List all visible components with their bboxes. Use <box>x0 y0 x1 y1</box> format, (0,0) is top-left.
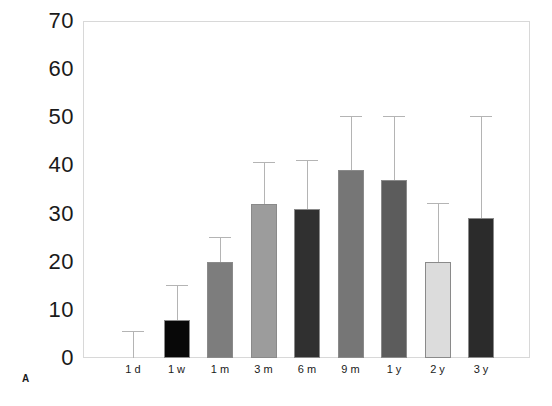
error-bar-cap <box>122 331 144 332</box>
x-tick-label: 9 m <box>331 364 371 375</box>
chart-page: 010203040506070 1 d1 w1 m3 m6 m9 m1 y2 y… <box>0 0 552 406</box>
panel-letter: A <box>22 374 29 384</box>
error-bar-line <box>264 163 265 204</box>
bar[interactable] <box>207 262 233 358</box>
error-bar-cap <box>427 203 449 204</box>
bar-group[interactable] <box>425 21 451 358</box>
y-tick-label: 50 <box>0 106 74 128</box>
error-bar-line <box>481 117 482 218</box>
error-bar-cap <box>383 116 405 117</box>
bar-group[interactable] <box>468 21 494 358</box>
x-tick-label: 1 y <box>374 364 414 375</box>
y-axis: 010203040506070 <box>0 0 74 406</box>
y-tick-label: 60 <box>0 58 74 80</box>
x-tick-label: 3 y <box>461 364 501 375</box>
error-bar-line <box>438 204 439 262</box>
bar-group[interactable] <box>294 21 320 358</box>
bar-group[interactable] <box>381 21 407 358</box>
bar[interactable] <box>425 262 451 358</box>
y-tick-label: 10 <box>0 299 74 321</box>
bar-group[interactable] <box>207 21 233 358</box>
error-bar-line <box>394 117 395 180</box>
y-tick-label: 20 <box>0 251 74 273</box>
error-bar-line <box>351 117 352 170</box>
bar-group[interactable] <box>338 21 364 358</box>
x-tick-label: 2 y <box>418 364 458 375</box>
bar[interactable] <box>338 170 364 358</box>
error-bar-cap <box>253 162 275 163</box>
error-bar-cap <box>470 116 492 117</box>
y-tick-label: 40 <box>0 154 74 176</box>
error-bar-line <box>220 238 221 262</box>
y-tick-label: 30 <box>0 203 74 225</box>
y-tick-label: 70 <box>0 10 74 32</box>
error-bar-cap <box>166 285 188 286</box>
error-bar-cap <box>340 116 362 117</box>
bar[interactable] <box>251 204 277 358</box>
bar[interactable] <box>294 209 320 358</box>
error-bar-line <box>307 161 308 209</box>
x-axis: 1 d1 w1 m3 m6 m9 m1 y2 y3 y <box>83 364 530 386</box>
bar-group[interactable] <box>251 21 277 358</box>
error-bar-line <box>177 286 178 320</box>
bar[interactable] <box>164 320 190 359</box>
x-tick-label: 6 m <box>287 364 327 375</box>
bar[interactable] <box>381 180 407 358</box>
x-tick-label: 1 m <box>200 364 240 375</box>
error-bar-cap <box>296 160 318 161</box>
error-bar-line <box>133 332 134 358</box>
bar-group[interactable] <box>164 21 190 358</box>
bar[interactable] <box>468 218 494 358</box>
bars-layer <box>83 21 530 358</box>
y-tick-label: 0 <box>0 347 74 369</box>
x-tick-label: 1 d <box>113 364 153 375</box>
error-bar-cap <box>209 237 231 238</box>
x-tick-label: 1 w <box>157 364 197 375</box>
x-tick-label: 3 m <box>244 364 284 375</box>
bar-group[interactable] <box>120 21 146 358</box>
